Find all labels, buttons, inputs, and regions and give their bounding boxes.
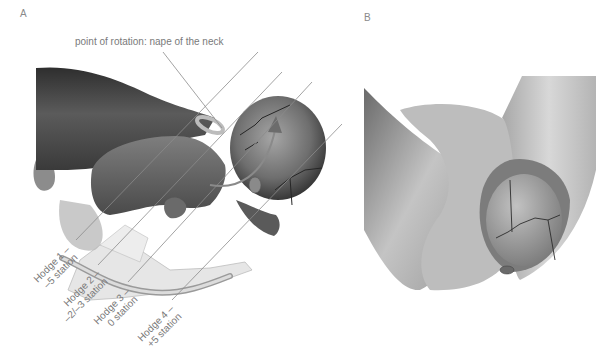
panel-b-illustration	[364, 76, 596, 290]
panel-a-illustration	[33, 52, 342, 300]
crowning-head	[486, 174, 562, 266]
panel-a-label: A	[20, 8, 27, 19]
panel-b-label: B	[364, 12, 371, 23]
anus	[500, 266, 514, 274]
rotation-point-annotation: point of rotation: nape of the neck	[75, 36, 223, 47]
face	[236, 200, 280, 236]
ear	[249, 177, 261, 193]
